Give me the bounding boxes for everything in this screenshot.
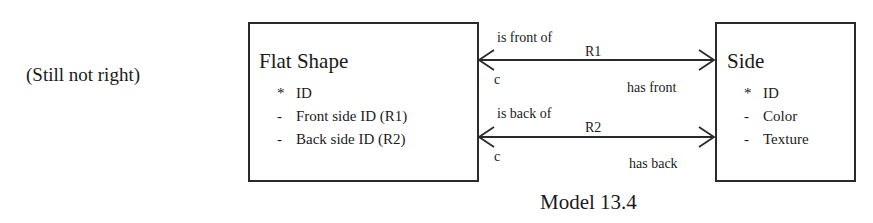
- relationship-phrase-left: is front of: [497, 30, 552, 46]
- relationship-cardinality: c: [494, 149, 500, 165]
- relationship-phrase-right: has back: [629, 156, 678, 172]
- relationship-id: R2: [585, 120, 601, 136]
- relationship-arrows: [0, 0, 873, 223]
- relationship-phrase-left: is back of: [497, 106, 551, 122]
- relationship-cardinality: c: [494, 72, 500, 88]
- relationship-phrase-right: has front: [627, 80, 676, 96]
- figure-caption: Model 13.4: [540, 190, 637, 215]
- relationship-id: R1: [585, 44, 601, 60]
